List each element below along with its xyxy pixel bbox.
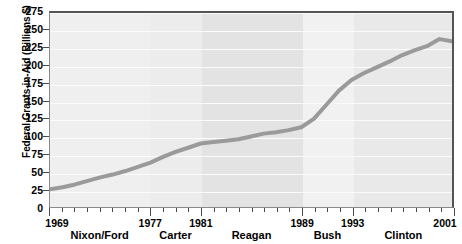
x-tick-1991 (327, 208, 328, 212)
era-label-bush: Bush (314, 229, 342, 241)
x-tick-label-1993: 1993 (341, 217, 364, 229)
y-tick-label-25: 25 (31, 184, 43, 196)
x-tick-1979 (176, 208, 177, 212)
x-tick-1990 (315, 208, 316, 212)
x-tick-1995 (378, 208, 379, 212)
series-line-federal-grants-in-aid (50, 13, 452, 207)
x-tick-1984 (239, 208, 240, 212)
x-tick-2000 (441, 208, 442, 212)
plot-area (49, 11, 454, 208)
y-axis-tick-labels: 2752502252001751501251007550250 (0, 0, 47, 244)
x-tick-1985 (252, 208, 253, 212)
y-tick-label-50: 50 (31, 166, 43, 178)
x-tick-1987 (277, 208, 278, 212)
y-tick-label-125: 125 (25, 112, 43, 124)
x-tick-1989 (302, 208, 303, 216)
x-tick-1971 (74, 208, 75, 212)
era-labels: Nixon/FordCarterReaganBushClinton (0, 229, 462, 244)
y-tick-label-275: 275 (25, 5, 43, 17)
x-tick-1992 (340, 208, 341, 212)
y-tick-label-150: 150 (25, 95, 43, 107)
x-tick-label-1969: 1969 (45, 217, 68, 229)
x-tick-1978 (163, 208, 164, 212)
y-tick-label-200: 200 (25, 59, 43, 71)
x-tick-label-1989: 1989 (290, 217, 313, 229)
x-tick-1970 (62, 208, 63, 212)
x-tick-1969 (49, 208, 50, 216)
y-tick-label-250: 250 (25, 23, 43, 35)
x-tick-1997 (403, 208, 404, 212)
x-tick-1996 (391, 208, 392, 212)
x-tick-1994 (365, 208, 366, 212)
x-tick-1982 (214, 208, 215, 212)
x-tick-1977 (150, 208, 151, 216)
x-tick-1975 (125, 208, 126, 212)
x-tick-1993 (353, 208, 354, 216)
x-tick-1983 (226, 208, 227, 212)
x-tick-1980 (188, 208, 189, 212)
x-tick-1972 (87, 208, 88, 212)
y-tick-label-0: 0 (37, 202, 43, 214)
x-tick-label-1977: 1977 (139, 217, 162, 229)
x-tick-1986 (264, 208, 265, 212)
era-label-nixon-ford: Nixon/Ford (71, 229, 129, 241)
x-tick-1998 (416, 208, 417, 212)
x-tick-label-1981: 1981 (189, 217, 212, 229)
x-tick-1973 (100, 208, 101, 212)
era-label-reagan: Reagan (232, 229, 272, 241)
era-label-clinton: Clinton (384, 229, 422, 241)
x-axis-ticks (49, 208, 454, 217)
x-tick-1999 (429, 208, 430, 212)
x-tick-1981 (201, 208, 202, 216)
y-tick-label-75: 75 (31, 148, 43, 160)
chart-container: Federal Grants-in-Aid (Billions $) 27525… (0, 0, 462, 244)
x-tick-2001 (454, 208, 455, 216)
y-tick-label-175: 175 (25, 77, 43, 89)
y-tick-label-100: 100 (25, 130, 43, 142)
x-tick-1976 (138, 208, 139, 212)
y-tick-label-225: 225 (25, 41, 43, 53)
x-tick-1974 (112, 208, 113, 212)
x-tick-1988 (289, 208, 290, 212)
era-label-carter: Carter (159, 229, 191, 241)
x-tick-label-2001: 2001 (433, 217, 456, 229)
